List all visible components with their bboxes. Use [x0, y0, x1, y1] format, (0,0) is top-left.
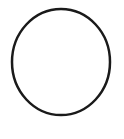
canvas-background: [0, 0, 124, 139]
shape-layer: [0, 0, 124, 139]
drawing-canvas: [0, 0, 124, 139]
